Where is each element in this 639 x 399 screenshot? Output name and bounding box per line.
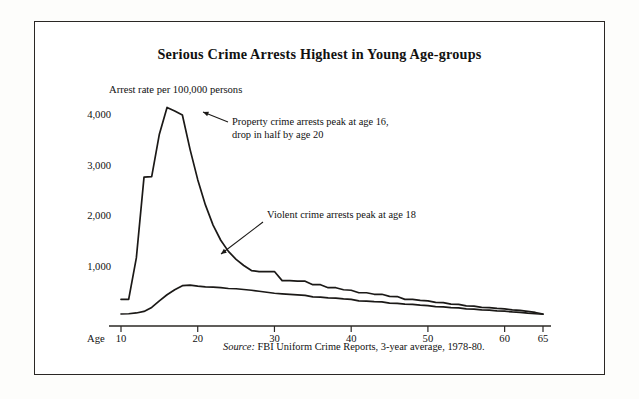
x-axis-origin-label: Age (87, 333, 105, 344)
x-tick-mark-group (121, 326, 543, 332)
y-tick-label: 4,000 (87, 109, 111, 120)
x-tick-label: 60 (499, 333, 510, 344)
y-tick-label: 1,000 (87, 261, 111, 272)
figure-frame: Serious Crime Arrests Highest in Young A… (34, 21, 605, 375)
figure-page: Serious Crime Arrests Highest in Young A… (0, 0, 639, 399)
line-chart-plot: 1,0002,0003,0004,000 10203040506065 Prop… (35, 22, 606, 376)
annotation-line: Property crime arrests peak at age 16, (232, 116, 389, 127)
x-tick-label: 65 (538, 333, 549, 344)
annotation-line: drop in half by age 20 (232, 129, 323, 140)
violent-annotation-arrowhead (221, 249, 227, 254)
y-tick-label-group: 1,0002,0003,0004,000 (87, 109, 111, 272)
violent-annotation: Violent crime arrests peak at age 18 (267, 209, 416, 220)
property-annotation: Property crime arrests peak at age 16,dr… (232, 116, 389, 140)
source-note: Source: FBI Uniform Crime Reports, 3-yea… (223, 341, 485, 352)
data-series-line (121, 285, 543, 314)
source-text: FBI Uniform Crime Reports, 3-year averag… (255, 341, 485, 352)
violent-annotation-leader-line (221, 222, 263, 254)
y-tick-label: 3,000 (87, 160, 111, 171)
source-label: Source: (223, 341, 255, 352)
y-tick-label: 2,000 (87, 210, 111, 221)
annotation-line: Violent crime arrests peak at age 18 (267, 209, 416, 220)
x-tick-label: 10 (116, 333, 127, 344)
x-tick-label: 20 (192, 333, 203, 344)
annotation-label-group: Property crime arrests peak at age 16,dr… (232, 116, 416, 220)
